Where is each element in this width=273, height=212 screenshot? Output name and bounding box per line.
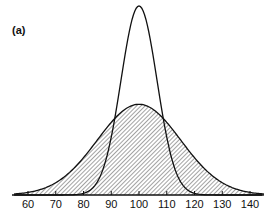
x-tick-label: 80 (77, 198, 89, 210)
plot-area (14, 6, 264, 195)
x-tick-label: 100 (130, 198, 148, 210)
x-tick-label: 140 (241, 198, 259, 210)
x-tick-label: 130 (213, 198, 231, 210)
x-tick-label: 70 (50, 198, 62, 210)
distribution-chart: (a) 60708090100110120130140 (0, 0, 273, 212)
panel-label: (a) (12, 24, 26, 36)
x-tick-label: 90 (105, 198, 117, 210)
x-tick-label: 60 (22, 198, 34, 210)
hatched-area (14, 104, 264, 195)
x-tick-label: 120 (185, 198, 203, 210)
x-tick-label: 110 (158, 198, 176, 210)
